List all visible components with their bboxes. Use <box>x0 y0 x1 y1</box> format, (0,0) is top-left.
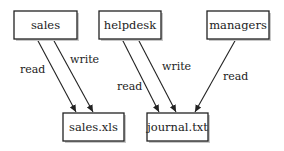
edges <box>37 39 236 112</box>
node-helpdesk: helpdesk <box>99 11 163 41</box>
permissions-diagram: read write read write read sales helpdes… <box>0 0 284 151</box>
edge-label-helpdesk-read: read <box>117 80 142 93</box>
edge-label-sales-write: write <box>70 53 99 66</box>
edge-label-sales-read: read <box>20 63 45 76</box>
node-label-helpdesk: helpdesk <box>104 18 157 32</box>
edge-label-managers-read: read <box>223 70 248 83</box>
edge-helpdesk-write <box>138 39 176 112</box>
node-label-managers: managers <box>209 18 267 32</box>
edge-sales-write <box>53 39 93 112</box>
node-label-journal-txt: journal.txt <box>145 120 208 134</box>
edge-labels: read write read write read <box>20 53 248 93</box>
node-label-sales-xls: sales.xls <box>69 120 118 134</box>
node-managers: managers <box>207 11 271 41</box>
edge-helpdesk-read <box>122 39 159 112</box>
node-label-sales: sales <box>31 18 60 32</box>
node-sales: sales <box>14 11 79 41</box>
edge-label-helpdesk-write: write <box>162 60 191 73</box>
node-sales-xls: sales.xls <box>63 113 126 143</box>
node-journal-txt: journal.txt <box>145 113 210 143</box>
